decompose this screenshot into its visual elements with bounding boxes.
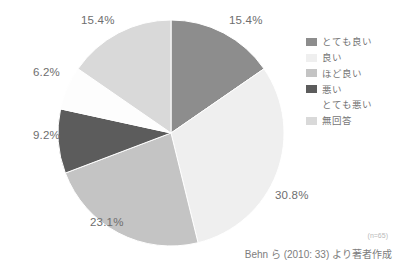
pie-label-warui: 9.2% <box>33 129 60 141</box>
legend-item[interactable]: とても良い <box>306 34 402 50</box>
legend-item[interactable]: 無回答 <box>306 113 402 129</box>
sample-size-note: (n=65) <box>368 232 388 239</box>
pie-label-mukaito: 15.4% <box>81 14 115 26</box>
legend-item-label: ほど良い <box>322 69 362 79</box>
legend-item[interactable]: 悪い <box>306 81 402 97</box>
pie-label-yoi: 30.8% <box>275 189 309 201</box>
legend-item-label: 無回答 <box>322 116 352 126</box>
legend-color-swatch <box>306 54 317 62</box>
pie-slice-group <box>58 20 284 246</box>
legend-color-swatch <box>306 38 317 46</box>
pie-chart-svg <box>57 19 285 247</box>
chart-legend: とても良い良いほど良い悪いとても悪い無回答 <box>306 34 402 129</box>
legend-color-swatch <box>306 85 317 93</box>
pie-label-totemo-warui: 6.2% <box>33 66 60 78</box>
legend-item-label: とても良い <box>322 37 372 47</box>
legend-item[interactable]: 良い <box>306 50 402 66</box>
legend-color-swatch <box>306 117 317 125</box>
pie-chart-plot-area <box>57 19 285 247</box>
legend-item[interactable]: ほど良い <box>306 66 402 82</box>
legend-item-label: 悪い <box>322 85 342 95</box>
legend-color-swatch <box>306 101 317 109</box>
legend-color-swatch <box>306 69 317 77</box>
pie-label-totemo-yoi: 15.4% <box>229 14 263 26</box>
pie-label-hodo-yoi: 23.1% <box>90 216 124 228</box>
pie-chart-figure: 15.4% 30.8% 23.1% 9.2% 6.2% 15.4% とても良い良… <box>0 0 406 268</box>
legend-item-label: とても悪い <box>322 100 372 110</box>
legend-item[interactable]: とても悪い <box>306 97 402 113</box>
legend-item-label: 良い <box>322 53 342 63</box>
source-attribution: Behn ら (2010: 33) より著者作成 <box>245 246 392 261</box>
